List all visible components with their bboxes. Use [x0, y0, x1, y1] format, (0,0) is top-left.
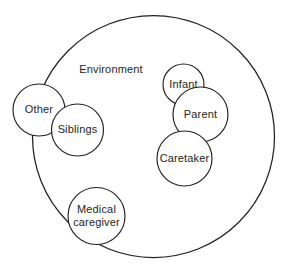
- diagram-canvas: Environment Other Siblings Medical careg…: [0, 0, 288, 276]
- node-medical-caregiver[interactable]: Medical caregiver: [68, 188, 125, 245]
- environment-diagram: Environment Other Siblings Medical careg…: [0, 0, 288, 276]
- node-medical-caregiver-label-line2: caregiver: [73, 216, 120, 228]
- node-siblings[interactable]: Siblings: [52, 104, 104, 156]
- node-siblings-label: Siblings: [58, 123, 98, 135]
- node-other-label: Other: [25, 103, 53, 115]
- node-medical-caregiver-label-line1: Medical: [77, 203, 116, 215]
- environment-label: Environment: [79, 63, 142, 75]
- node-parent-label: Parent: [184, 108, 217, 120]
- node-caretaker-label: Caretaker: [160, 152, 210, 164]
- node-caretaker[interactable]: Caretaker: [157, 131, 212, 186]
